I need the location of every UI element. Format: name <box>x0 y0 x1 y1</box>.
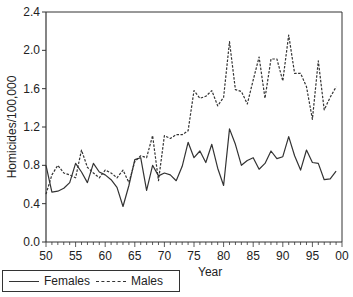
y-axis-title: Homicides/100,000 <box>5 75 19 178</box>
line-chart: 0.00.40.81.21.62.02.4 505560657075808590… <box>0 0 353 297</box>
y-tick-label: 2.4 <box>23 5 40 19</box>
x-tick-label: 75 <box>187 249 201 263</box>
x-tick-label: 80 <box>217 249 231 263</box>
legend-label-females: Females <box>44 274 90 288</box>
dashed-line-swatch-icon <box>96 281 126 282</box>
y-tick-label: 0.8 <box>23 158 40 172</box>
y-tick-label: 1.6 <box>23 82 40 96</box>
x-tick-label: 90 <box>276 249 290 263</box>
series-line-females <box>46 129 336 207</box>
x-tick-label: 60 <box>99 249 113 263</box>
x-tick-label: 00 <box>335 249 349 263</box>
y-tick-label: 1.2 <box>23 120 40 134</box>
y-tick-label: 0.4 <box>23 197 40 211</box>
x-tick-label: 95 <box>306 249 320 263</box>
legend-item-females: Females <box>9 274 90 288</box>
x-tick-label: 65 <box>128 249 142 263</box>
solid-line-swatch-icon <box>9 281 39 282</box>
legend-item-males: Males <box>96 274 163 288</box>
legend: Females Males <box>2 270 180 292</box>
x-tick-label: 85 <box>247 249 261 263</box>
series-layer <box>46 35 336 207</box>
plot-frame <box>46 12 342 242</box>
x-tick-label: 55 <box>69 249 83 263</box>
series-line-males <box>46 35 336 194</box>
x-tick-label: 70 <box>158 249 172 263</box>
y-tick-label: 2.0 <box>23 43 40 57</box>
x-axis-ticks: 5055606570758085909500 <box>39 242 349 263</box>
legend-label-males: Males <box>131 274 163 288</box>
y-axis-ticks: 0.00.40.81.21.62.02.4 <box>23 5 46 249</box>
x-axis-title: Year <box>198 265 222 279</box>
y-tick-label: 0.0 <box>23 235 40 249</box>
x-tick-label: 50 <box>39 249 53 263</box>
